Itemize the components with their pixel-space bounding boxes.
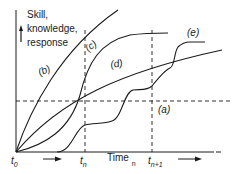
- y-axis-label-line-2: knowledge,: [27, 23, 78, 34]
- reference-lines: [16, 30, 232, 152]
- y-axis-arrow-icon: [19, 25, 23, 42]
- x-axis-label: Timen: [107, 152, 136, 167]
- curve-label-b: (b): [36, 63, 52, 78]
- y-axis-label-line-1: Skill,: [27, 9, 48, 20]
- y-axis-label-line-3: response: [27, 37, 69, 48]
- time-arrow-icon-2: [178, 157, 202, 162]
- x-axis-ticks: t0 tn tn+1: [11, 155, 163, 168]
- tick-tn1: tn+1: [148, 155, 163, 168]
- learning-curves-diagram: Skill, knowledge, response (b) (c) (d) (…: [0, 0, 235, 174]
- curve-label-d: (d): [109, 57, 123, 70]
- tick-tn: tn: [80, 155, 87, 168]
- curve-label-a: (a): [158, 104, 170, 115]
- y-axis-label: Skill, knowledge, response: [27, 9, 78, 48]
- time-arrow-icon: [43, 157, 62, 162]
- tick-t0: t0: [11, 155, 18, 168]
- curve-label-e: (e): [187, 27, 199, 38]
